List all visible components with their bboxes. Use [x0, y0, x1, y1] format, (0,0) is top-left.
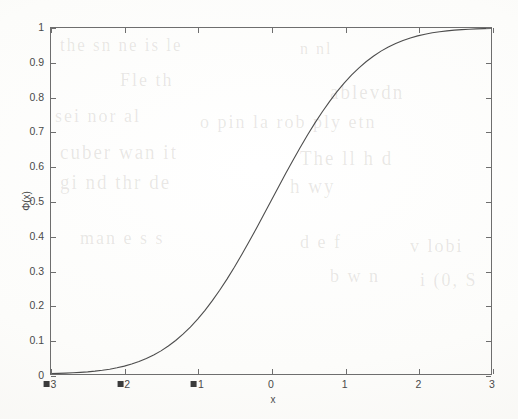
- y-tick-label: 0.9: [29, 56, 44, 68]
- minus-sign-block-glyph: [117, 381, 123, 387]
- y-tick-right: [486, 28, 491, 29]
- y-tick-right: [486, 132, 491, 133]
- x-tick-bottom: [125, 369, 126, 374]
- y-tick-left: [51, 376, 56, 377]
- x-tick-bottom: [272, 369, 273, 374]
- y-tick-left: [51, 202, 56, 203]
- y-tick-label: 0.1: [29, 334, 44, 346]
- x-tick-label: 3: [489, 378, 495, 390]
- y-tick-left: [51, 28, 56, 29]
- x-tick-label: 1: [191, 378, 204, 390]
- y-tick-label: 0.6: [29, 160, 44, 172]
- x-tick-bottom: [51, 369, 52, 374]
- x-tick-label: 1: [342, 378, 348, 390]
- y-tick-right: [486, 272, 491, 273]
- x-tick-bottom: [198, 369, 199, 374]
- y-tick-left: [51, 237, 56, 238]
- y-tick-left: [51, 132, 56, 133]
- x-tick-top: [125, 28, 126, 33]
- minus-sign-block-glyph: [191, 381, 197, 387]
- y-tick-right: [486, 341, 491, 342]
- y-tick-left: [51, 63, 56, 64]
- y-tick-left: [51, 341, 56, 342]
- x-tick-top: [346, 28, 347, 33]
- x-tick-bottom: [419, 369, 420, 374]
- x-tick-label: 2: [415, 378, 421, 390]
- x-tick-label: 3: [44, 378, 57, 390]
- x-tick-label: 0: [268, 378, 274, 390]
- y-tick-label: 1: [38, 21, 44, 33]
- y-axis-title: Φ(x): [21, 191, 32, 211]
- y-tick-right: [486, 98, 491, 99]
- x-tick-top: [419, 28, 420, 33]
- y-tick-label: 0.3: [29, 265, 44, 277]
- x-tick-top: [493, 28, 494, 33]
- figure-normal-cdf-plot: 3210123 00.10.20.30.40.50.60.70.80.91 x …: [0, 0, 518, 419]
- y-tick-right: [486, 202, 491, 203]
- minus-sign-block-glyph: [44, 381, 50, 387]
- y-tick-right: [486, 376, 491, 377]
- y-tick-label: 0.4: [29, 230, 44, 242]
- y-tick-left: [51, 167, 56, 168]
- y-tick-label: 0.2: [29, 299, 44, 311]
- y-tick-left: [51, 272, 56, 273]
- x-tick-label: 2: [117, 378, 130, 390]
- y-tick-label: 0.7: [29, 125, 44, 137]
- y-tick-right: [486, 167, 491, 168]
- series-line-phi-x: [51, 28, 491, 373]
- y-tick-left: [51, 306, 56, 307]
- y-tick-label: 0: [38, 369, 44, 381]
- y-tick-right: [486, 237, 491, 238]
- x-axis-title: x: [271, 394, 276, 405]
- y-tick-left: [51, 98, 56, 99]
- y-tick-right: [486, 306, 491, 307]
- x-tick-bottom: [346, 369, 347, 374]
- plot-area: [50, 27, 492, 375]
- curve-svg: [51, 28, 491, 374]
- x-tick-bottom: [493, 369, 494, 374]
- x-tick-top: [272, 28, 273, 33]
- y-tick-right: [486, 63, 491, 64]
- y-tick-label: 0.8: [29, 91, 44, 103]
- x-tick-top: [198, 28, 199, 33]
